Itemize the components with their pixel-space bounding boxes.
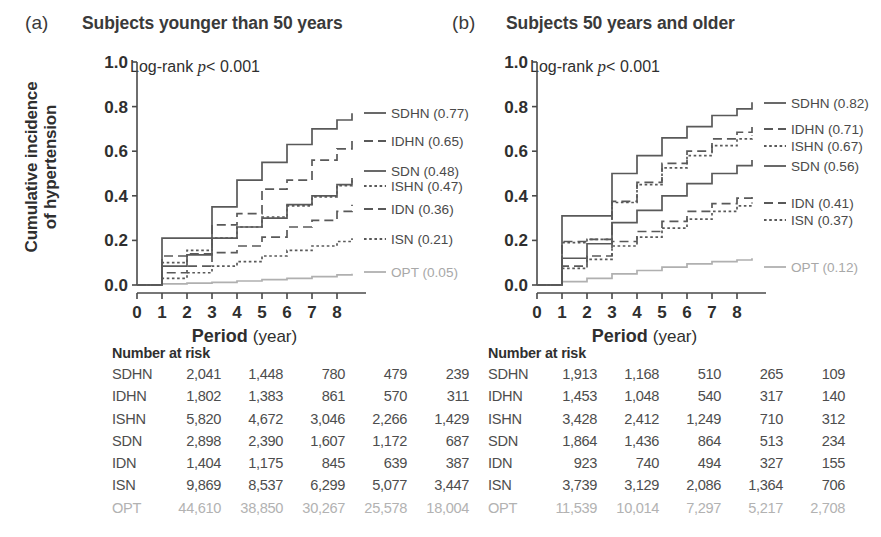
risk-cell: 2,708 [783,498,845,520]
risk-cell: 1,048 [597,386,659,408]
x-tick-label: 1 [557,303,566,322]
risk-cell: 494 [659,453,721,475]
curve-sdn [137,178,352,285]
x-tick-label: 0 [532,303,541,322]
y-tick-label: 0.0 [504,276,528,295]
y-tick-label: 1.0 [504,53,528,72]
y-tick-label: 0.8 [104,98,128,117]
x-tick-label: 8 [332,303,341,322]
risk-cell: 740 [597,453,659,475]
risk-row-label: SDHN [488,364,535,386]
risk-cell: 1,383 [221,386,283,408]
x-tick-label: 8 [732,303,741,322]
risk-row-label: SDN [112,431,159,453]
risk-cell: 317 [721,386,783,408]
x-axis-label-unit: (year) [653,327,697,346]
risk-cell: 1,404 [159,453,221,475]
x-tick-label: 0 [132,303,141,322]
risk-cell: 155 [783,453,845,475]
risk-cell: 5,217 [721,498,783,520]
risk-cell: 1,364 [721,475,783,497]
curve-opt [537,258,752,285]
risk-row-label: ISN [488,475,535,497]
x-tick-label: 3 [207,303,216,322]
risk-cell: 2,412 [597,409,659,431]
risk-cell: 8,537 [221,475,283,497]
risk-row-sdhn: SDHN2,0411,448780479239 [112,364,469,386]
risk-cell: 1,448 [221,364,283,386]
panel-b: (b) Subjects 50 years and older Log-rank… [440,0,881,537]
y-tick-label: 0.6 [504,142,528,161]
x-tick-label: 7 [307,303,316,322]
risk-cell: 234 [783,431,845,453]
risk-row-label: SDN [488,431,535,453]
risk-row-idn: IDN923740494327155 [488,453,845,475]
risk-row-label: OPT [112,498,159,520]
x-axis-label-bold: Period [192,326,253,346]
legend-label-idhn: IDHN (0.71) [791,122,864,137]
risk-row-sdhn: SDHN1,9131,168510265109 [488,364,845,386]
risk-cell: 1,913 [535,364,597,386]
x-tick-label: 2 [582,303,591,322]
risk-cell: 1,172 [345,431,407,453]
risk-cell: 2,266 [345,409,407,431]
legend-label-isn: ISN (0.37) [791,213,853,228]
risk-row-label: SDHN [112,364,159,386]
risk-cell: 3,129 [597,475,659,497]
risk-cell: 864 [659,431,721,453]
risk-row-ishn: ISHN3,4282,4121,249710312 [488,409,845,431]
risk-cell: 706 [783,475,845,497]
y-tick-label: 1.0 [104,53,128,72]
legend-label-ishn: ISHN (0.67) [791,139,863,154]
risk-cell: 570 [345,386,407,408]
risk-row-label: IDHN [112,386,159,408]
curve-opt [137,274,352,285]
risk-cell: 1,453 [535,386,597,408]
x-tick-label: 3 [607,303,616,322]
risk-row-opt: OPT44,61038,85030,26725,57818,004 [112,498,469,520]
risk-cell: 1,175 [221,453,283,475]
risk-row-opt: OPT11,53910,0147,2975,2172,708 [488,498,845,520]
risk-cell: 38,850 [221,498,283,520]
y-tick-label: 0.4 [504,187,528,206]
curve-isn [537,202,752,285]
risk-row-isn: ISN9,8698,5376,2995,0773,447 [112,475,469,497]
risk-cell: 10,014 [597,498,659,520]
risk-cell: 6,299 [283,475,345,497]
x-axis-label: Period (year) [592,326,697,346]
risk-cell: 5,820 [159,409,221,431]
y-tick-label: 0.6 [104,142,128,161]
risk-cell: 5,077 [345,475,407,497]
panel-a-risk-table: SDHN2,0411,448780479239IDHN1,8021,383861… [112,364,469,520]
x-tick-label: 4 [232,303,242,322]
x-tick-label: 2 [182,303,191,322]
risk-row-sdn: SDN2,8982,3901,6071,172687 [112,431,469,453]
curve-sdhn [137,113,352,285]
risk-cell: 510 [659,364,721,386]
risk-cell: 3,428 [535,409,597,431]
risk-cell: 1,802 [159,386,221,408]
panel-a: (a) Subjects younger than 50 years Cumul… [0,0,452,537]
risk-cell: 540 [659,386,721,408]
risk-cell: 2,898 [159,431,221,453]
risk-row-label: IDN [112,453,159,475]
risk-cell: 479 [345,364,407,386]
x-axis-label: Period (year) [192,326,297,346]
risk-cell: 1,864 [535,431,597,453]
y-tick-label: 0.8 [504,98,528,117]
risk-cell: 2,390 [221,431,283,453]
risk-row-idhn: IDHN1,4531,048540317140 [488,386,845,408]
risk-cell: 109 [783,364,845,386]
legend-label-opt: OPT (0.12) [791,260,858,275]
risk-row-label: ISHN [488,409,535,431]
risk-row-label: ISN [112,475,159,497]
risk-cell: 710 [721,409,783,431]
y-tick-label: 0.0 [104,276,128,295]
risk-row-idn: IDN1,4041,175845639387 [112,453,469,475]
risk-row-sdn: SDN1,8641,436864513234 [488,431,845,453]
risk-cell: 923 [535,453,597,475]
risk-cell: 1,249 [659,409,721,431]
risk-cell: 44,610 [159,498,221,520]
risk-cell: 845 [283,453,345,475]
risk-cell: 513 [721,431,783,453]
